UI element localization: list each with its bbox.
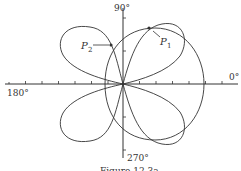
petal-lower-left: [60, 84, 123, 142]
label-180: 180°: [7, 88, 29, 98]
figure-caption: Figure 12.3a: [100, 166, 159, 171]
p1-arrow: [153, 31, 160, 37]
petal-upper-left: [60, 26, 123, 84]
label-p1: P: [159, 36, 167, 47]
point-p2: [109, 43, 112, 46]
label-p1-sub: 1: [167, 42, 171, 50]
label-90: 90°: [114, 3, 130, 13]
label-0: 0°: [229, 72, 239, 82]
label-p2-sub: 2: [88, 46, 92, 54]
point-p1: [147, 26, 150, 29]
polar-diagram: 90° 0° 180° 270° P 1 P 2 Figure 12.3a: [0, 0, 241, 171]
label-p2: P: [80, 40, 88, 51]
label-270: 270°: [127, 153, 149, 163]
